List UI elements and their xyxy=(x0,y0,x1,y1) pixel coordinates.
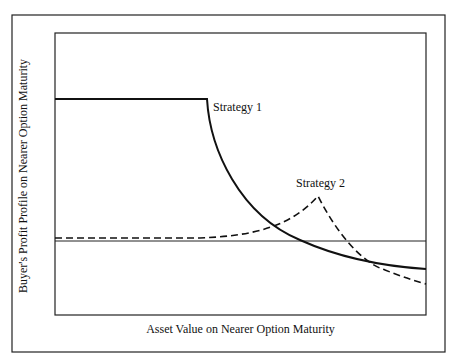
chart-canvas xyxy=(0,0,455,360)
x-axis-label: Asset Value on Nearer Option Maturity xyxy=(55,322,426,337)
strategy-2-label: Strategy 2 xyxy=(296,176,345,191)
series-strategy-1 xyxy=(55,99,426,269)
y-axis-label: Buyer's Profit Profile on Nearer Option … xyxy=(16,56,32,296)
strategy-1-label: Strategy 1 xyxy=(213,100,262,115)
series-strategy-2 xyxy=(55,196,426,284)
plot-area xyxy=(55,33,426,315)
outer-frame xyxy=(12,15,445,352)
